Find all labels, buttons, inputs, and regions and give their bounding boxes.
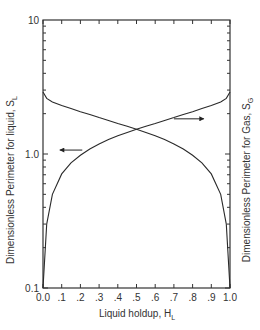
x-tick-label: .2 [76,292,85,303]
y-axis-tick-labels: 101.00.1 [25,15,39,294]
y-tick-label: 1.0 [25,149,39,160]
chart: 0.0.1.2.3.4.5.6.7.8.91.0 101.00.1 Liquid… [0,0,260,330]
x-tick-label: .1 [58,292,67,303]
x-axis-tick-labels: 0.0.1.2.3.4.5.6.7.8.91.0 [36,292,237,303]
x-axis-title: Liquid holdup, HL [99,308,175,321]
right-axis-title: Dimensionless Perimeter for Gas, SG [241,98,254,262]
liquid-perimeter-curve [43,92,230,288]
gas-perimeter-curve [43,92,230,288]
y-tick-label: 0.1 [25,283,39,294]
y-tick-label: 10 [28,15,40,26]
x-tick-label: 1.0 [223,292,237,303]
plot-frame [43,20,230,288]
x-tick-label: .6 [151,292,160,303]
x-tick-label: .3 [95,292,104,303]
x-tick-label: .9 [207,292,216,303]
x-tick-label: .7 [170,292,179,303]
x-tick-label: .4 [114,292,123,303]
left-axis-title: Dimensionless Perimeter for liquid, SL [5,96,18,264]
x-tick-label: .5 [132,292,141,303]
x-tick-label: .8 [188,292,197,303]
